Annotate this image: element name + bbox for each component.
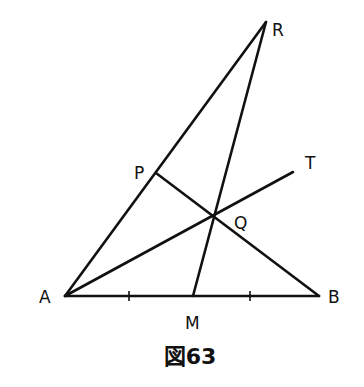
- segment-rm: [193, 22, 266, 296]
- segment-ar: [65, 22, 266, 296]
- label-a: A: [39, 287, 51, 307]
- label-t: T: [304, 153, 316, 173]
- label-m: M: [185, 313, 200, 333]
- label-r: R: [272, 20, 284, 40]
- label-p: P: [134, 163, 144, 183]
- label-q: Q: [234, 213, 247, 233]
- label-b: B: [328, 287, 340, 307]
- geometry-figure: R P T Q A B M 図63: [0, 0, 364, 387]
- figure-caption: 図63: [164, 344, 217, 369]
